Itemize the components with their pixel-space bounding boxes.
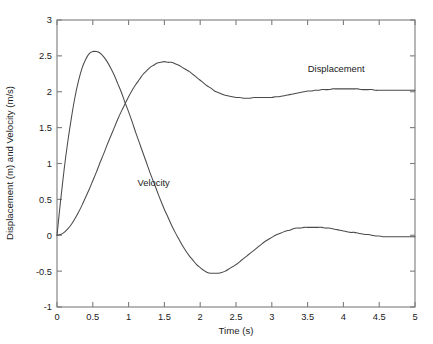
x-tick-label: 4 bbox=[341, 312, 346, 322]
x-tick-label: 4.5 bbox=[373, 312, 386, 322]
curve-label-velocity: Velocity bbox=[138, 177, 171, 188]
y-tick-label: 2.5 bbox=[39, 51, 52, 61]
x-tick-label: 2 bbox=[198, 312, 203, 322]
x-tick-label: 3 bbox=[269, 312, 274, 322]
x-tick-label: 0.5 bbox=[86, 312, 99, 322]
x-tick-label: 2.5 bbox=[230, 312, 243, 322]
y-tick-label: 3 bbox=[47, 15, 52, 25]
figure-background bbox=[0, 0, 433, 344]
x-axis-title: Time (s) bbox=[219, 325, 254, 336]
x-tick-label: 3.5 bbox=[301, 312, 314, 322]
x-tick-label: 0 bbox=[54, 312, 59, 322]
y-tick-label: 1.5 bbox=[39, 123, 52, 133]
x-tick-label: 1.5 bbox=[158, 312, 171, 322]
y-tick-label: -0.5 bbox=[36, 267, 52, 277]
x-tick-label: 1 bbox=[126, 312, 131, 322]
figure-canvas: 00.511.522.533.544.55-1-0.500.511.522.53… bbox=[0, 0, 433, 344]
y-tick-label: 1 bbox=[47, 159, 52, 169]
curve-label-displacement: Displacement bbox=[308, 63, 365, 74]
y-tick-label: 0.5 bbox=[39, 195, 52, 205]
y-axis-title: Displacement (m) and Velocity (m/s) bbox=[4, 86, 15, 240]
plot-svg: 00.511.522.533.544.55-1-0.500.511.522.53… bbox=[0, 0, 433, 344]
y-tick-label: -1 bbox=[44, 302, 52, 312]
y-tick-label: 0 bbox=[47, 231, 52, 241]
y-tick-label: 2 bbox=[47, 87, 52, 97]
x-tick-label: 5 bbox=[412, 312, 417, 322]
